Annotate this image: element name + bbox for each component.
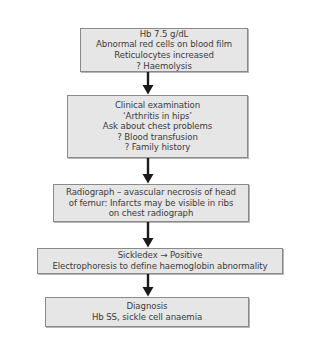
step-text: Sickledex → Positive bbox=[118, 250, 203, 261]
step-initial-findings: Hb 7.5 g/dL Abnormal red cells on blood … bbox=[80, 28, 248, 72]
step-clinical-examination: Clinical examination ‘Arthritis in hips’… bbox=[67, 95, 248, 158]
step-text: Electrophoresis to define haemoglobin ab… bbox=[52, 261, 267, 272]
step-text: ? Family history bbox=[125, 142, 191, 153]
step-sickledex: Sickledex → Positive Electrophoresis to … bbox=[37, 248, 283, 274]
arrow-down-icon bbox=[142, 72, 154, 95]
step-text: Diagnosis bbox=[127, 301, 168, 312]
step-text: on chest radiograph bbox=[109, 208, 194, 219]
step-text: Abnormal red cells on blood film bbox=[96, 39, 232, 50]
step-text: Hb SS, sickle cell anaemia bbox=[92, 312, 202, 323]
step-text: ‘Arthritis in hips’ bbox=[123, 111, 192, 122]
step-text: Radiograph – avascular necrosis of head bbox=[66, 187, 236, 198]
step-text: Clinical examination bbox=[115, 100, 200, 111]
step-text: of femur: Infarcts may be visible in rib… bbox=[69, 198, 234, 209]
step-text: Hb 7.5 g/dL bbox=[140, 29, 189, 40]
step-text: Ask about chest problems bbox=[103, 121, 212, 132]
step-text: Reticulocytes increased bbox=[114, 50, 214, 61]
step-text: ? Haemolysis bbox=[136, 61, 192, 72]
step-text: ? Blood transfusion bbox=[117, 132, 198, 143]
step-radiograph: Radiograph – avascular necrosis of head … bbox=[53, 184, 249, 222]
arrow-down-icon bbox=[142, 222, 154, 248]
step-diagnosis: Diagnosis Hb SS, sickle cell anaemia bbox=[45, 297, 249, 327]
arrow-down-icon bbox=[142, 274, 154, 297]
arrow-down-icon bbox=[142, 158, 154, 184]
